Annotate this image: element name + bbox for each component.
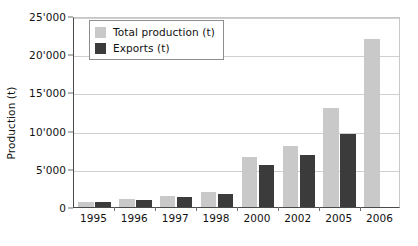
x-axis-tick-mark [155, 207, 156, 211]
x-axis-tick-mark [360, 207, 361, 211]
bar-exports [259, 165, 275, 207]
legend-swatch-total-production-icon [95, 27, 106, 38]
x-axis-tick-label: 2005 [325, 212, 352, 224]
bar-total-production [364, 39, 380, 207]
bar-total-production [119, 199, 135, 207]
bar-group [319, 18, 360, 207]
bar-exports [340, 134, 356, 207]
x-axis-tick-label: 2000 [243, 212, 270, 224]
y-axis-tick-label: 15'000 [29, 87, 66, 99]
x-axis-tick-mark [114, 207, 115, 211]
x-axis-tick-label: 2006 [366, 212, 393, 224]
legend-item: Exports (t) [95, 41, 215, 55]
x-axis-tick-mark [319, 207, 320, 211]
bar-chart: Production (t) 05'00010'00015'00020'0002… [0, 0, 418, 246]
y-axis-tick-label: 5'000 [36, 164, 66, 176]
bar-exports [136, 200, 152, 207]
y-axis-tick-label: 20'000 [29, 49, 66, 61]
chart-legend: Total production (t) Exports (t) [89, 20, 224, 60]
y-axis-title: Production (t) [0, 0, 22, 246]
legend-label: Total production (t) [113, 26, 215, 38]
bar-total-production [323, 108, 339, 207]
bar-total-production [242, 157, 258, 207]
x-axis-tick-label: 1996 [121, 212, 148, 224]
x-axis-tick-label: 2002 [284, 212, 311, 224]
x-axis-tick-label: 1997 [162, 212, 189, 224]
bar-exports [95, 202, 111, 207]
bar-exports [177, 197, 193, 207]
bar-group [360, 18, 401, 207]
y-axis-tick-label: 0 [59, 202, 66, 214]
legend-swatch-exports-icon [95, 43, 106, 54]
x-axis-tick-mark [278, 207, 279, 211]
legend-label: Exports (t) [113, 42, 170, 54]
y-axis-tick-label: 25'000 [29, 11, 66, 23]
x-axis-tick-mark [237, 207, 238, 211]
bar-total-production [201, 192, 217, 207]
bar-exports [218, 194, 234, 207]
x-axis-tick-label: 1998 [202, 212, 229, 224]
y-axis-tick-label: 10'000 [29, 126, 66, 138]
bar-total-production [160, 196, 176, 207]
bar-group [278, 18, 319, 207]
legend-item: Total production (t) [95, 25, 215, 39]
x-axis-tick-mark [196, 207, 197, 211]
bar-total-production [283, 146, 299, 207]
x-axis-tick-label: 1995 [80, 212, 107, 224]
bar-group [238, 18, 279, 207]
bar-total-production [78, 202, 94, 207]
bar-exports [300, 155, 316, 207]
